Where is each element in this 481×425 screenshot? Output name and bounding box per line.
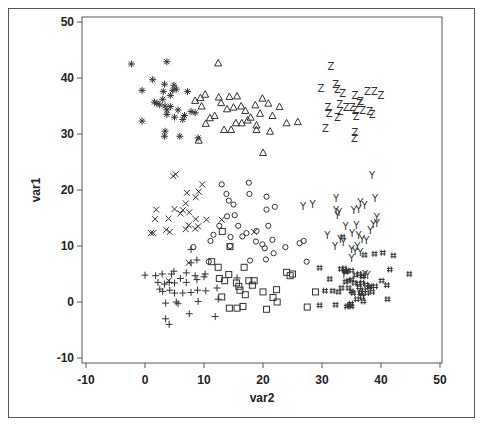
- data-point: [301, 238, 306, 243]
- data-point: [173, 171, 179, 177]
- data-point: [241, 264, 247, 270]
- x-tick-label: 20: [256, 373, 270, 387]
- data-point: [228, 234, 233, 239]
- data-point: Z: [351, 133, 358, 144]
- x-tick-label: 40: [374, 373, 388, 387]
- data-point: Y: [350, 205, 358, 216]
- data-point: [167, 92, 174, 99]
- plot-area: [82, 17, 442, 363]
- data-point: [369, 289, 375, 295]
- data-point: [272, 204, 277, 209]
- data-point: [262, 246, 267, 251]
- data-point: [228, 126, 235, 133]
- data-point: [219, 228, 225, 234]
- data-point: [240, 234, 245, 239]
- data-point: [270, 237, 275, 242]
- x-axis: -1001020304050: [77, 363, 447, 387]
- data-point: [152, 216, 158, 222]
- data-point: [202, 91, 209, 98]
- series-group-square: [209, 228, 319, 312]
- data-point: [183, 279, 190, 286]
- data-point: Z: [378, 90, 385, 101]
- data-point: [224, 214, 229, 219]
- data-point: [163, 58, 170, 65]
- x-axis-title: var2: [250, 391, 275, 405]
- y-tick-label: 10: [61, 239, 75, 253]
- data-point: [194, 287, 201, 294]
- data-point: [234, 92, 241, 99]
- data-point: [217, 223, 222, 228]
- data-point: [211, 232, 216, 237]
- y-tick-label: 50: [61, 15, 75, 29]
- data-point: Y: [347, 253, 355, 264]
- data-point: [192, 272, 199, 279]
- data-point: [154, 279, 161, 286]
- data-point: [304, 304, 310, 310]
- data-point: Z: [359, 105, 366, 116]
- data-point: [317, 265, 323, 271]
- data-point: [380, 250, 386, 256]
- data-point: [327, 276, 333, 282]
- data-point: [175, 300, 182, 307]
- data-point: [257, 110, 264, 117]
- data-point: [162, 300, 169, 307]
- data-point: [188, 246, 195, 253]
- data-point: [372, 251, 378, 257]
- data-point: Z: [369, 109, 376, 120]
- data-point: [186, 310, 193, 317]
- data-point: [195, 298, 202, 305]
- data-point: [172, 206, 178, 212]
- data-point: [390, 253, 396, 259]
- data-point: [156, 101, 163, 108]
- data-point: [162, 315, 169, 322]
- data-point: [203, 217, 209, 223]
- data-point: [264, 207, 269, 212]
- data-point: [166, 216, 172, 222]
- data-point: [260, 289, 266, 295]
- x-tick-label: 10: [197, 373, 211, 387]
- y-tick-label: 0: [67, 295, 74, 309]
- data-point: [406, 271, 412, 277]
- data-point: [163, 111, 170, 118]
- data-point: [213, 285, 220, 292]
- data-point: [195, 223, 201, 229]
- y-axis: -1001020304050: [57, 15, 82, 365]
- data-point: [215, 296, 222, 303]
- data-point: Y: [333, 210, 341, 221]
- data-point: Z: [339, 88, 346, 99]
- data-point: [163, 227, 169, 233]
- data-point: [192, 109, 199, 116]
- data-point: [219, 217, 225, 223]
- data-point: [171, 279, 178, 286]
- series-group-triangle: [192, 59, 302, 155]
- data-point: Y: [323, 230, 331, 241]
- data-point: [215, 59, 222, 65]
- data-point: [152, 272, 159, 279]
- data-point: [161, 81, 168, 88]
- data-point: [160, 88, 167, 95]
- data-point: [231, 202, 236, 207]
- data-point: [166, 321, 173, 328]
- data-point: [153, 207, 159, 213]
- data-point: [149, 76, 156, 83]
- data-point: Z: [326, 108, 333, 119]
- data-point: [266, 223, 271, 228]
- data-point: [179, 116, 186, 123]
- data-point: [276, 103, 283, 110]
- series-group-z: ZZZZZZZZZZZZZZZZZZZZZZZZZZ: [317, 61, 384, 144]
- data-point: [274, 299, 280, 305]
- data-point: [313, 289, 319, 295]
- data-point: [162, 128, 169, 135]
- data-point: Z: [353, 111, 360, 122]
- y-axis-title: var1: [29, 177, 43, 202]
- data-point: Y: [331, 241, 339, 252]
- data-point: [171, 114, 178, 121]
- data-point: [317, 302, 323, 308]
- data-point: Y: [362, 235, 370, 246]
- data-point: [290, 271, 296, 277]
- data-point: Y: [368, 170, 376, 181]
- data-point: [253, 239, 258, 244]
- data-point: [179, 290, 186, 297]
- data-point: Z: [317, 83, 324, 94]
- data-point: [232, 213, 237, 218]
